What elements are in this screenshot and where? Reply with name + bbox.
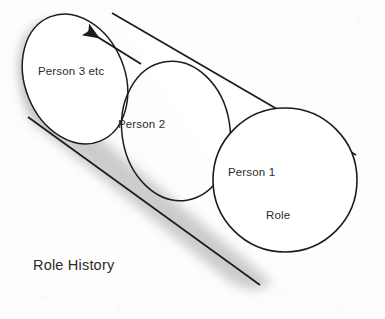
diagram-caption: Role History xyxy=(33,258,114,273)
label-person-3-etc: Person 3 etc xyxy=(38,66,104,78)
diagram-canvas: Person 3 etc Person 2 Person 1 Role Role… xyxy=(0,0,385,319)
person-1-front-circle xyxy=(213,108,357,252)
label-person-2: Person 2 xyxy=(118,119,165,131)
label-person-1: Person 1 xyxy=(228,167,275,179)
label-role: Role xyxy=(266,210,290,222)
